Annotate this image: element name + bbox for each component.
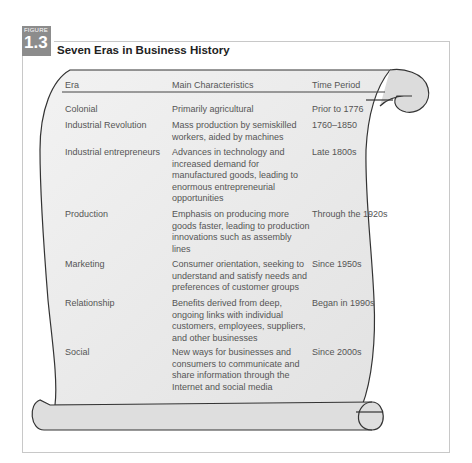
row-period: Since 2000s [312,347,402,359]
row-period: Through the 1920s [312,209,402,221]
row-era: Social [65,347,175,359]
row-era: Industrial Revolution [65,120,175,132]
row-era: Industrial entrepreneurs [65,147,175,159]
row-period: Began in 1990s [312,298,402,310]
row-era: Relationship [65,298,175,310]
row-era: Colonial [65,104,175,116]
row-period: 1760–1850 [312,120,402,132]
row-characteristics: New ways for businesses and consumers to… [172,347,312,393]
row-era: Marketing [65,259,175,271]
row-characteristics: Advances in technology and increased dem… [172,147,312,205]
row-characteristics: Consumer orientation, seeking to underst… [172,259,312,294]
row-characteristics: Primarily agricultural [172,104,312,116]
col-header-era: Era [65,80,175,92]
row-period: Late 1800s [312,147,402,159]
eras-table: Era Main Characteristics Time Period Col… [0,0,472,463]
row-characteristics: Mass production by semiskilled workers, … [172,120,312,143]
row-period: Prior to 1776 [312,104,402,116]
row-period: Since 1950s [312,259,402,271]
row-characteristics: Benefits derived from deep, ongoing link… [172,298,312,344]
col-header-period: Time Period [312,80,402,92]
row-characteristics: Emphasis on producing more goods faster,… [172,209,312,255]
row-era: Production [65,209,175,221]
col-header-characteristics: Main Characteristics [172,80,312,92]
